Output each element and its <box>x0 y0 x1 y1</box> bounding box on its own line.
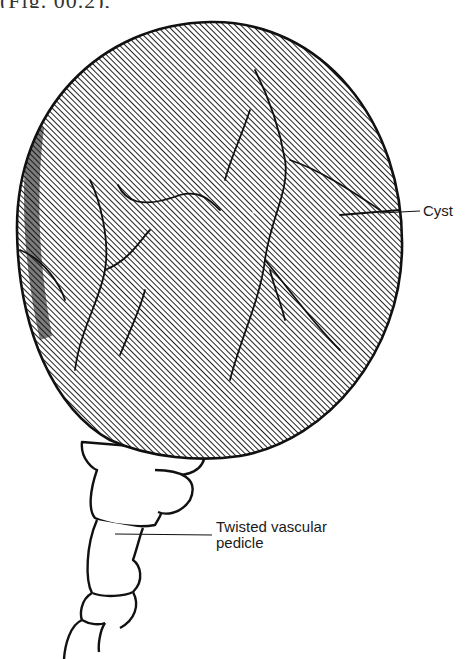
ovarian-cyst-illustration <box>0 0 469 659</box>
pedicle-label-line1: Twisted vascular <box>216 519 336 535</box>
cyst-label: Cyst <box>423 203 453 219</box>
twisted-pedicle-shape <box>64 442 205 659</box>
pedicle-label: Twisted vascular pedicle <box>216 519 336 551</box>
cyst-body <box>0 0 469 659</box>
pedicle-label-line2: pedicle <box>216 535 336 551</box>
